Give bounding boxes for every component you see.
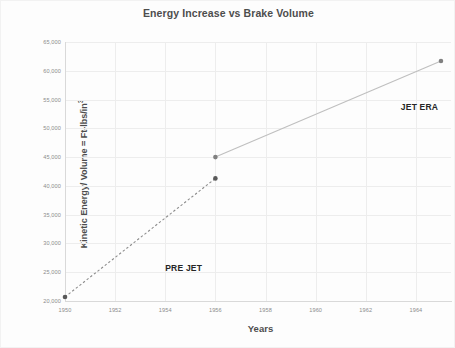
x-axis-tick-label: 1960 bbox=[296, 307, 336, 313]
x-axis-tick-label: 1962 bbox=[346, 307, 386, 313]
grid-line-horizontal bbox=[65, 157, 451, 158]
y-axis-tick-label: 30,000 bbox=[17, 240, 61, 246]
grid-line-vertical bbox=[316, 42, 317, 301]
y-axis-tick-label: 55,000 bbox=[17, 97, 61, 103]
y-axis-tick-label: 25,000 bbox=[17, 269, 61, 275]
x-axis-tick-label: 1952 bbox=[95, 307, 135, 313]
chart-figure: Energy Increase vs Brake Volume Kinetic … bbox=[0, 0, 455, 348]
plot-area bbox=[65, 42, 451, 301]
x-axis-line bbox=[65, 301, 452, 302]
grid-line-horizontal bbox=[65, 186, 451, 187]
y-axis-tick-label: 45,000 bbox=[17, 154, 61, 160]
grid-line-vertical bbox=[366, 42, 367, 301]
y-axis-tick-label: 50,000 bbox=[17, 125, 61, 131]
grid-line-vertical bbox=[416, 42, 417, 301]
grid-line-horizontal bbox=[65, 42, 451, 43]
x-axis-tick-label: 1956 bbox=[195, 307, 235, 313]
y-axis-tick-label: 35,000 bbox=[17, 212, 61, 218]
grid-line-horizontal bbox=[65, 243, 451, 244]
annotation-jet-era: JET ERA bbox=[401, 102, 438, 112]
y-axis-tick-label: 60,000 bbox=[17, 68, 61, 74]
y-axis-tick-labels: 20,00025,00030,00035,00040,00045,00050,0… bbox=[15, 1, 61, 348]
x-axis-tick-label: 1950 bbox=[45, 307, 85, 313]
y-axis-tick-label: 20,000 bbox=[17, 298, 61, 304]
chart-title: Energy Increase vs Brake Volume bbox=[1, 7, 455, 19]
grid-line-horizontal bbox=[65, 272, 451, 273]
x-axis-tick-label: 1964 bbox=[396, 307, 436, 313]
grid-line-horizontal bbox=[65, 71, 451, 72]
grid-line-horizontal bbox=[65, 215, 451, 216]
grid-line-vertical bbox=[115, 42, 116, 301]
grid-line-horizontal bbox=[65, 128, 451, 129]
y-axis-tick-label: 65,000 bbox=[17, 39, 61, 45]
x-axis-tick-label: 1954 bbox=[145, 307, 185, 313]
y-axis-tick-label: 40,000 bbox=[17, 183, 61, 189]
x-axis-tick-label: 1958 bbox=[246, 307, 286, 313]
grid-line-vertical bbox=[215, 42, 216, 301]
annotation-pre-jet: PRE JET bbox=[165, 263, 202, 273]
x-axis-title: Years bbox=[65, 323, 455, 334]
grid-line-vertical bbox=[266, 42, 267, 301]
grid-line-horizontal bbox=[65, 100, 451, 101]
y-axis-line bbox=[65, 42, 66, 302]
